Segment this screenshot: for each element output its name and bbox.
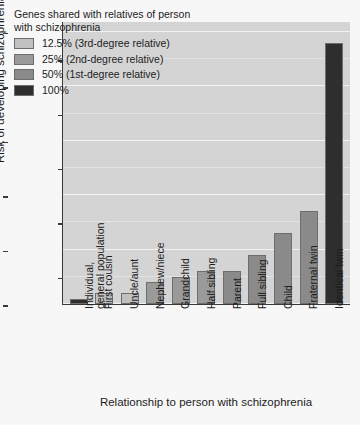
x-tick-label-text: Fraternal twin: [308, 245, 319, 309]
x-tick-label-text: Nephew/niece: [155, 242, 166, 309]
y-tick-mark: [3, 142, 8, 144]
y-tick-mark-minor: [58, 223, 62, 225]
x-tick-label: Grandchild: [171, 307, 189, 387]
legend-swatch: [14, 38, 34, 49]
x-tick-label: Nephew/niece: [146, 307, 164, 387]
x-tick-label: Individual,general population: [69, 307, 87, 387]
legend-item: 100%: [14, 84, 210, 97]
x-tick-label-text: Identical twin: [334, 248, 345, 309]
legend-items: 12.5% (3rd-degree relative)25% (2nd-degr…: [14, 37, 210, 97]
x-tick-label-text: Half sibling: [206, 258, 217, 309]
x-tick-label-text: Full sibling: [257, 259, 268, 309]
x-tick-label-text: Uncle/aunt: [129, 259, 140, 309]
legend-item: 50% (1st-degree relative): [14, 68, 210, 81]
y-tick-mark: [3, 305, 8, 307]
x-tick-label: First cousin: [94, 307, 112, 387]
y-tick-mark: [3, 196, 8, 198]
legend-label: 12.5% (3rd-degree relative): [42, 37, 170, 50]
y-tick-mark-minor: [58, 278, 62, 280]
legend-label: 100%: [42, 84, 69, 97]
legend-swatch: [14, 54, 34, 65]
legend-label: 25% (2nd-degree relative): [42, 53, 163, 66]
x-tick-label: Fraternal twin: [299, 307, 317, 387]
legend-swatch: [14, 85, 34, 96]
x-axis-title: Relationship to person with schizophreni…: [62, 396, 350, 408]
y-tick-mark: [3, 87, 8, 89]
legend-item: 12.5% (3rd-degree relative): [14, 37, 210, 50]
y-axis-title: Risk of developing schizophrenia (%): [0, 0, 6, 163]
x-tick-label: Child: [274, 307, 292, 387]
legend-swatch: [14, 69, 34, 80]
x-axis-labels: Individual,general populationFirst cousi…: [62, 307, 350, 387]
x-tick-label-text: Parent: [232, 278, 243, 309]
legend-label: 50% (1st-degree relative): [42, 68, 160, 81]
y-tick-mark-minor: [58, 169, 62, 171]
x-tick-label-text: Grandchild: [180, 258, 191, 309]
y-tick-mark: [3, 33, 8, 35]
x-tick-label: Full sibling: [248, 307, 266, 387]
y-tick-mark: [3, 251, 8, 253]
x-tick-label-text: First cousin: [103, 255, 114, 309]
x-tick-label: Parent: [223, 307, 241, 387]
x-tick-label: Half sibling: [197, 307, 215, 387]
legend-title: Genes shared with relatives of person wi…: [14, 8, 210, 33]
x-tick-label: Uncle/aunt: [120, 307, 138, 387]
legend-item: 25% (2nd-degree relative): [14, 53, 210, 66]
chart-figure: Risk of developing schizophrenia (%) 010…: [0, 0, 360, 425]
x-tick-label-text: Child: [283, 285, 294, 309]
legend: Genes shared with relatives of person wi…: [14, 8, 210, 99]
x-tick-label: Identical twin: [325, 307, 343, 387]
y-tick-mark-minor: [58, 115, 62, 117]
